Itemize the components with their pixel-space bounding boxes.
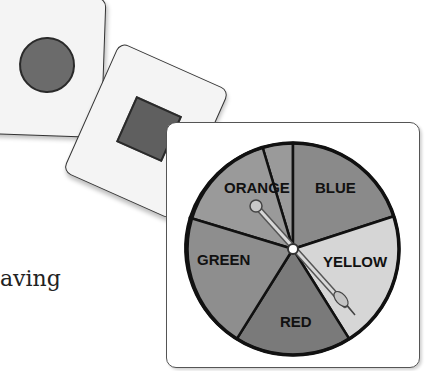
label-green: GREEN bbox=[197, 251, 250, 268]
label-yellow: YELLOW bbox=[323, 253, 388, 270]
spinner-card: ORANGE BLUE GREEN YELLOW RED bbox=[166, 122, 420, 368]
spinner[interactable]: ORANGE BLUE GREEN YELLOW RED bbox=[167, 123, 419, 367]
label-blue: BLUE bbox=[315, 179, 356, 196]
label-red: RED bbox=[280, 313, 312, 330]
body-text: aving bbox=[0, 266, 61, 291]
label-orange: ORANGE bbox=[224, 179, 290, 196]
spinner-pivot bbox=[288, 244, 298, 254]
circle-shape bbox=[18, 36, 76, 94]
